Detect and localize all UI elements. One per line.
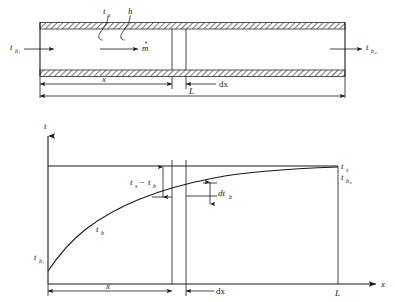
pipe-tbi-main: t <box>10 42 13 52</box>
pipe-ts-main: t <box>103 6 106 16</box>
plot-delta-t-label: t s − t b <box>130 177 156 189</box>
pipe-schematic: t s h t b i t b o m <box>10 6 378 98</box>
plot-dtb-main: dt <box>218 188 226 198</box>
pipe-mass-flow-label: m <box>142 42 149 53</box>
pipe-outlet-temp-label: t b o <box>366 42 378 55</box>
pipe-top-wall <box>40 23 345 30</box>
plot-bulk-temp-curve <box>48 167 338 271</box>
plot-delta-tb-main: t <box>148 177 151 187</box>
plot-tb-main: t <box>96 224 99 234</box>
pipe-mdot-main: m <box>142 43 149 53</box>
plot-dim-dx-label: dx <box>216 286 226 296</box>
plot-y-axis-label: t <box>44 121 47 131</box>
pipe-bottom-wall <box>40 70 345 77</box>
pipe-tbi-sub2: i <box>19 50 21 55</box>
heat-transfer-figure: t s h t b i t b o m <box>0 0 395 302</box>
plot-dim-x-label: x <box>105 281 110 291</box>
plot-x-axis-label: x <box>380 279 385 289</box>
plot-dtb-label: dt b <box>218 188 232 200</box>
plot-inlet-temp-label: t b i <box>34 252 45 265</box>
plot-tbi-sub2: i <box>43 260 45 265</box>
plot-delta-ts-main: t <box>130 177 133 187</box>
pipe-tbo-sub2: o <box>375 50 378 55</box>
pipe-inlet-temp-label: t b i <box>10 42 21 55</box>
pipe-h-label: h <box>128 6 133 16</box>
plot-surface-temp-label: t s <box>341 161 349 173</box>
plot-tbo-main: t <box>341 172 344 182</box>
mdot-dot-icon <box>145 42 147 44</box>
plot-ts-main: t <box>341 161 344 171</box>
pipe-ts-sub: s <box>108 12 111 18</box>
plot-tbi-main: t <box>34 252 37 262</box>
pipe-dim-L-label: L <box>188 86 194 96</box>
pipe-dim-x-label: x <box>101 74 106 84</box>
temperature-plot: t x t s − t b <box>34 121 385 298</box>
plot-delta-minus: − <box>139 177 144 187</box>
plot-tbo-sub2: o <box>350 180 353 185</box>
plot-delta-tb-sub: b <box>153 183 156 189</box>
pipe-surface-temp-label: t s <box>103 6 111 18</box>
plot-L-label: L <box>334 288 340 298</box>
pipe-dim-dx-label: dx <box>219 79 229 89</box>
pipe-tbo-main: t <box>366 42 369 52</box>
plot-outlet-temp-label: t b o <box>341 172 353 185</box>
plot-ts-sub: s <box>346 167 349 173</box>
plot-tb-sub: b <box>101 230 104 236</box>
plot-dtb-sub: b <box>229 194 232 200</box>
plot-delta-ts-sub: s <box>135 183 138 189</box>
plot-bulk-curve-label: t b <box>96 224 104 236</box>
